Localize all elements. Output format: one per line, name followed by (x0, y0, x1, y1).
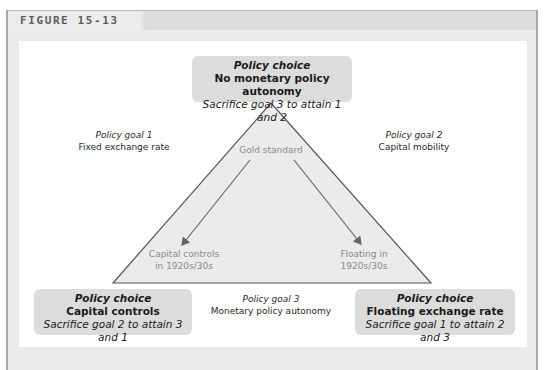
figure-header-bar: FIGURE 15-13 (8, 11, 536, 30)
capital-controls-1920s-label: Capital controls in 1920s/30s (134, 248, 234, 272)
top-choice-title: No monetary policy autonomy (192, 72, 352, 98)
goal1-label: Policy goal 1 (69, 129, 179, 141)
figure-frame: FIGURE 15-13 Policy choice No monetary p… (6, 10, 538, 370)
left-policy-choice-box: Policy choice Capital controls Sacrifice… (34, 289, 192, 335)
goal2-label: Policy goal 2 (359, 129, 469, 141)
right-choice-heading: Policy choice (355, 292, 515, 305)
top-choice-heading: Policy choice (192, 59, 352, 72)
floating-line2: 1920s/30s (314, 260, 414, 272)
capital-controls-line2: in 1920s/30s (134, 260, 234, 272)
right-choice-title: Floating exchange rate (355, 305, 515, 318)
left-choice-subtitle: Sacrifice goal 2 to attain 3 and 1 (34, 318, 192, 344)
capital-controls-line1: Capital controls (134, 248, 234, 260)
right-policy-choice-box: Policy choice Floating exchange rate Sac… (355, 289, 515, 335)
right-choice-subtitle: Sacrifice goal 1 to attain 2 and 3 (355, 318, 515, 344)
policy-goal-3: Policy goal 3 Monetary policy autonomy (206, 293, 336, 317)
goal3-label: Policy goal 3 (206, 293, 336, 305)
diagram-panel: Policy choice No monetary policy autonom… (19, 41, 527, 347)
goal2-name: Capital mobility (359, 141, 469, 153)
goal3-name: Monetary policy autonomy (206, 305, 336, 317)
policy-goal-1: Policy goal 1 Fixed exchange rate (69, 129, 179, 153)
figure-label: FIGURE 15-13 (20, 14, 119, 27)
policy-goal-2: Policy goal 2 Capital mobility (359, 129, 469, 153)
top-policy-choice-box: Policy choice No monetary policy autonom… (192, 56, 352, 102)
floating-1920s-label: Floating in 1920s/30s (314, 248, 414, 272)
left-choice-title: Capital controls (34, 305, 192, 318)
gold-standard-label: Gold standard (221, 144, 321, 156)
floating-line1: Floating in (314, 248, 414, 260)
left-choice-heading: Policy choice (34, 292, 192, 305)
top-choice-subtitle: Sacrifice goal 3 to attain 1 and 2 (192, 98, 352, 124)
goal1-name: Fixed exchange rate (69, 141, 179, 153)
